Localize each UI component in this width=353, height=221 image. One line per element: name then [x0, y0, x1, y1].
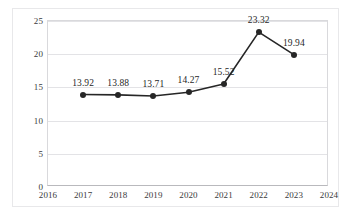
x-axis-tick-label: 2021 [214, 190, 232, 200]
data-point-label: 13.92 [72, 78, 94, 88]
x-axis-tick-label: 2017 [74, 190, 92, 200]
y-axis-tick-label: 10 [34, 116, 43, 126]
y-axis-tick-label: 5 [38, 149, 43, 159]
data-point-label: 14.27 [178, 75, 200, 85]
data-point-marker [291, 52, 297, 58]
data-point-label: 13.71 [142, 79, 164, 89]
x-axis-tick-label: 2022 [250, 190, 268, 200]
x-axis-tick-label: 2016 [39, 190, 57, 200]
data-point-label: 13.88 [107, 78, 129, 88]
y-axis-tick-label: 15 [34, 82, 43, 92]
x-axis-tick-label: 2020 [179, 190, 197, 200]
y-axis-tick-label: 25 [34, 16, 43, 26]
data-point-marker [186, 89, 192, 95]
data-point-label: 19.94 [283, 38, 305, 48]
data-point-label: 23.32 [248, 15, 270, 25]
y-axis-tick-label: 20 [34, 49, 43, 59]
data-point-marker [80, 92, 86, 98]
data-point-marker [221, 81, 227, 87]
chart-frame: 0510152025 20162017201820192020202120222… [12, 8, 339, 207]
plot-area: 0510152025 20162017201820192020202120222… [47, 20, 328, 186]
x-axis-tick-label: 2018 [109, 190, 127, 200]
x-axis-tick-label: 2023 [285, 190, 303, 200]
x-axis-tick-label: 2024 [320, 190, 338, 200]
data-point-label: 15.52 [213, 67, 235, 77]
data-point-marker [256, 29, 262, 35]
x-axis-tick-label: 2019 [144, 190, 162, 200]
